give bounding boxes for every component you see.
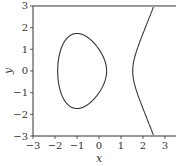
y-axis-label: y (2, 67, 15, 75)
x-tick-label: 3 (162, 140, 168, 151)
y-tick-label: 1 (22, 44, 28, 55)
y-tick-label: 2 (22, 22, 28, 33)
y-tick-label: 3 (22, 0, 28, 11)
x-tick-label: −2 (48, 140, 63, 151)
x-tick-label: −3 (26, 140, 41, 151)
x-axis-label: x (96, 152, 103, 165)
x-tick-label: 2 (140, 140, 146, 151)
x-tick-label: 0 (96, 140, 102, 151)
y-tick-label: −3 (13, 131, 28, 142)
open-branch-curve (133, 7, 154, 135)
y-tick-label: −2 (13, 109, 28, 120)
y-tick-label: 0 (22, 65, 28, 76)
elliptic-curve-chart: −3−2−10123−3−2−10123xy (0, 0, 176, 166)
closed-loop-curve (58, 33, 107, 108)
x-tick-label: −1 (70, 140, 85, 151)
x-tick-label: 1 (118, 140, 124, 151)
y-tick-label: −1 (13, 87, 28, 98)
